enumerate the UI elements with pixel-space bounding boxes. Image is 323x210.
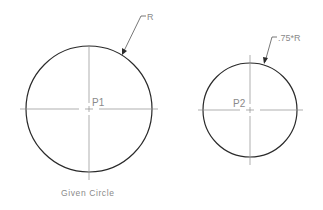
radius-label: .75*R: [278, 33, 301, 43]
given-circle: R P1 Given Circle: [20, 12, 158, 198]
drawing-canvas: R P1 Given Circle .75*R P2: [0, 0, 323, 210]
radius-leader: [263, 37, 277, 64]
scaled-circle: .75*R P2: [198, 33, 303, 165]
radius-leader: [122, 16, 146, 55]
center-label: P1: [92, 97, 105, 108]
center-label: P2: [233, 98, 246, 109]
centerlines: [20, 45, 158, 180]
radius-label: R: [147, 12, 154, 22]
caption: Given Circle: [61, 188, 115, 198]
centerlines: [198, 55, 303, 165]
